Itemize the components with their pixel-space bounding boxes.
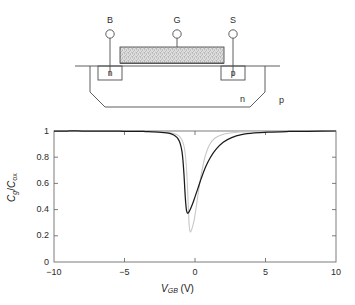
cv-curve-high-frequency bbox=[54, 131, 336, 213]
n-well-label: n bbox=[240, 95, 245, 104]
gate-terminal-label: G bbox=[170, 16, 184, 25]
cv-curve-low-frequency bbox=[54, 131, 336, 232]
y-axis-label-slash: / bbox=[6, 188, 17, 191]
source-terminal-label: S bbox=[226, 16, 240, 25]
x-tick-label-3: 5 bbox=[251, 268, 281, 277]
y-axis-label-num: C bbox=[6, 195, 17, 202]
x-tick-label-0: −10 bbox=[39, 268, 69, 277]
y-tick-label-1: 0.2 bbox=[23, 231, 49, 240]
source-terminal-circle bbox=[229, 30, 237, 38]
y-axis-label-den-sub: ox bbox=[11, 173, 18, 180]
x-tick-label-1: −5 bbox=[110, 268, 140, 277]
y-tick-label-0: 0 bbox=[23, 258, 49, 267]
n-plus-diffusion-label: n bbox=[104, 69, 116, 78]
device-cross-section-diagram: B G S n p n p bbox=[0, 0, 355, 122]
y-tick-label-2: 0.4 bbox=[23, 205, 49, 214]
cv-plot-svg bbox=[0, 122, 355, 305]
bulk-terminal-circle bbox=[106, 30, 114, 38]
p-substrate-label: p bbox=[279, 96, 284, 105]
y-axis-label-den: C bbox=[6, 181, 17, 188]
figure-root: B G S n p n p −10−5051000.20.40.60.81 VG… bbox=[0, 0, 355, 305]
x-tick-label-4: 10 bbox=[321, 268, 351, 277]
y-tick-label-5: 1 bbox=[23, 127, 49, 136]
gate-terminal-circle bbox=[173, 30, 181, 38]
x-axis-label-main: V bbox=[161, 283, 168, 294]
x-axis-label-sub: GB bbox=[168, 287, 178, 294]
x-tick-label-2: 0 bbox=[180, 268, 210, 277]
y-axis-label-num-sub: g bbox=[11, 191, 18, 195]
p-plus-diffusion-label: p bbox=[227, 69, 239, 78]
x-axis-label-unit: (V) bbox=[181, 283, 194, 294]
bulk-terminal-label: B bbox=[103, 16, 117, 25]
gate-electrode bbox=[120, 47, 224, 63]
cv-plot: −10−5051000.20.40.60.81 bbox=[0, 122, 355, 305]
y-tick-label-4: 0.8 bbox=[23, 153, 49, 162]
y-axis-label: Cg/Cox bbox=[6, 158, 17, 218]
y-tick-label-3: 0.6 bbox=[23, 179, 49, 188]
x-axis-label: VGB (V) bbox=[0, 283, 355, 294]
